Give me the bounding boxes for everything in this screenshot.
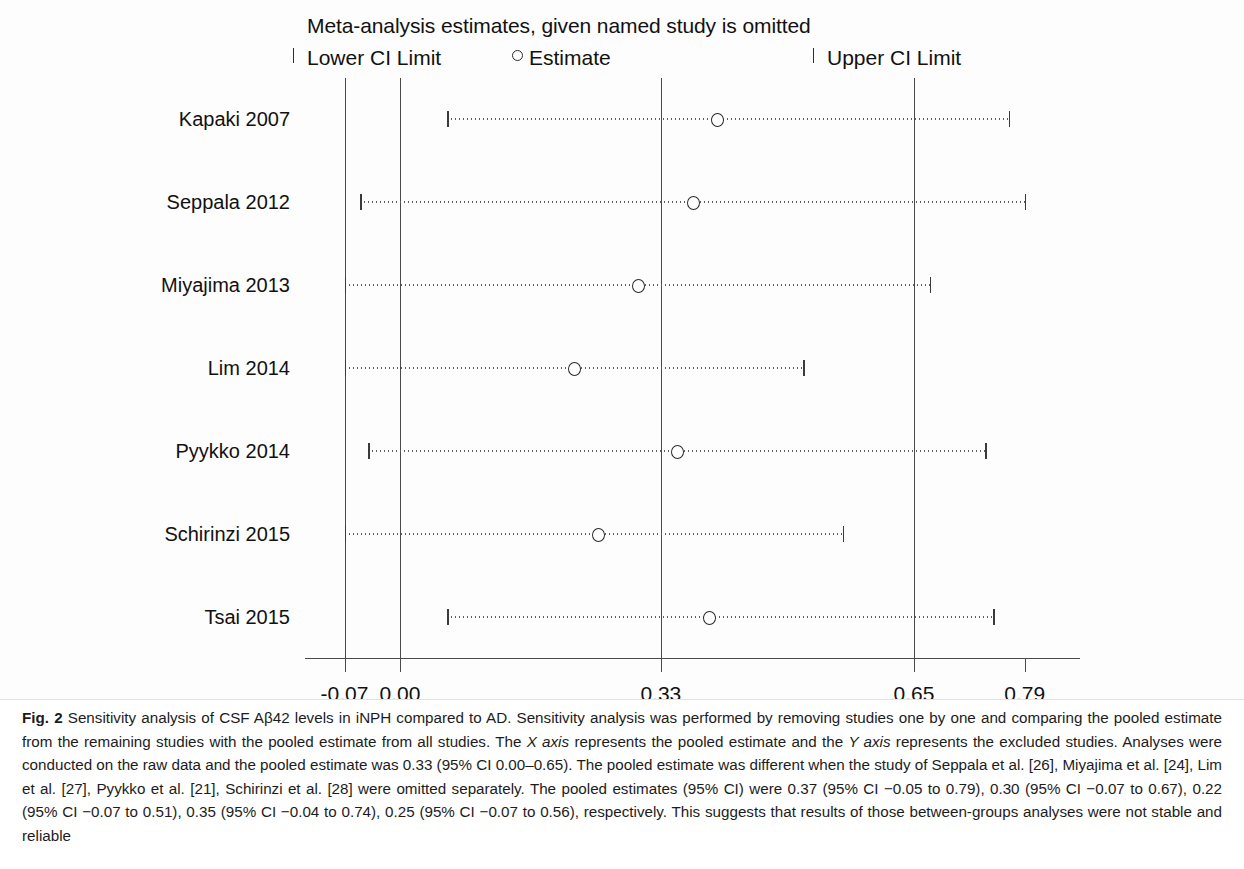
y-axis-label-seppala-2012: Seppala 2012 bbox=[80, 191, 290, 214]
estimate-marker bbox=[592, 528, 605, 542]
lower-ci-cap bbox=[447, 111, 449, 127]
lower-ci-cap bbox=[345, 526, 347, 542]
upper-ci-tick-icon bbox=[813, 48, 814, 63]
upper-ci-cap bbox=[1009, 111, 1011, 127]
confidence-interval-line bbox=[447, 118, 1008, 120]
figure-plate: Meta-analysis estimates, given named stu… bbox=[0, 0, 1244, 700]
estimate-marker bbox=[671, 445, 684, 459]
legend-label-lower-ci: Lower CI Limit bbox=[307, 46, 441, 70]
x-axis-tick bbox=[661, 659, 663, 672]
estimate-marker bbox=[703, 611, 716, 625]
plot-area: -0.070.000.330.650.79 bbox=[305, 78, 1080, 658]
data-row-lim-2014 bbox=[305, 358, 1080, 378]
estimate-marker bbox=[632, 279, 645, 293]
lower-ci-tick-icon bbox=[293, 48, 294, 63]
confidence-interval-line bbox=[447, 616, 993, 618]
upper-ci-cap bbox=[985, 443, 987, 459]
y-axis-label-pyykko-2014: Pyykko 2014 bbox=[80, 439, 290, 462]
caption-x-axis-term: X axis bbox=[527, 733, 569, 750]
data-row-pyykko-2014 bbox=[305, 441, 1080, 461]
y-axis-label-miyajima-2013: Miyajima 2013 bbox=[80, 274, 290, 297]
upper-ci-cap bbox=[993, 609, 995, 625]
lower-ci-cap bbox=[447, 609, 449, 625]
upper-ci-cap bbox=[843, 526, 845, 542]
y-axis-label-kapaki-2007: Kapaki 2007 bbox=[80, 108, 290, 131]
lower-ci-cap bbox=[345, 360, 347, 376]
lower-ci-cap bbox=[360, 194, 362, 210]
plot-canvas: Meta-analysis estimates, given named stu… bbox=[0, 0, 1244, 700]
estimate-marker bbox=[568, 362, 581, 376]
y-axis-label-schirinzi-2015: Schirinzi 2015 bbox=[80, 522, 290, 545]
y-axis-labels: Kapaki 2007Seppala 2012Miyajima 2013Lim … bbox=[60, 0, 290, 700]
estimate-circle-icon bbox=[512, 50, 523, 61]
legend-label-estimate: Estimate bbox=[529, 46, 611, 70]
chart-title: Meta-analysis estimates, given named stu… bbox=[307, 14, 811, 38]
caption-y-axis-term: Y axis bbox=[848, 733, 890, 750]
figure-caption: Fig. 2 Sensitivity analysis of CSF Aβ42 … bbox=[0, 700, 1244, 869]
upper-ci-cap bbox=[1025, 194, 1027, 210]
data-row-tsai-2015 bbox=[305, 607, 1080, 627]
data-row-kapaki-2007 bbox=[305, 109, 1080, 129]
lower-ci-cap bbox=[345, 277, 347, 293]
upper-ci-cap bbox=[930, 277, 932, 293]
estimate-marker bbox=[687, 196, 700, 210]
estimate-marker bbox=[711, 113, 724, 127]
legend-label-upper-ci: Upper CI Limit bbox=[827, 46, 961, 70]
figure-label: Fig. 2 bbox=[22, 709, 63, 726]
x-axis-tick bbox=[914, 659, 916, 672]
x-axis-tick bbox=[400, 659, 402, 672]
y-axis-label-lim-2014: Lim 2014 bbox=[80, 357, 290, 380]
data-row-schirinzi-2015 bbox=[305, 524, 1080, 544]
data-row-seppala-2012 bbox=[305, 192, 1080, 212]
y-axis-label-tsai-2015: Tsai 2015 bbox=[80, 605, 290, 628]
data-row-miyajima-2013 bbox=[305, 275, 1080, 295]
chart-legend: Lower CI Limit Estimate Upper CI Limit bbox=[307, 44, 1067, 72]
x-axis-tick bbox=[345, 659, 347, 672]
x-axis-line bbox=[305, 658, 1080, 660]
lower-ci-cap bbox=[368, 443, 370, 459]
upper-ci-cap bbox=[803, 360, 805, 376]
x-axis-end-cap bbox=[1025, 659, 1027, 672]
caption-sentence-2: represents the pooled estimate and the bbox=[569, 733, 848, 750]
